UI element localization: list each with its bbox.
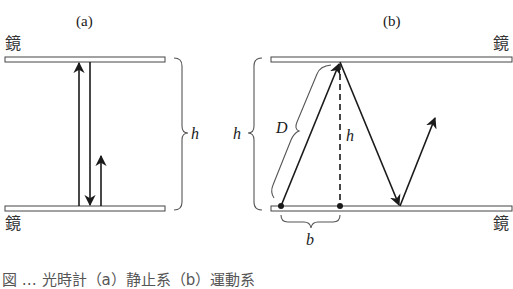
apex-projection-dot xyxy=(337,203,343,209)
panel-label-b: (b) xyxy=(383,14,401,29)
panel-label-a: (a) xyxy=(76,14,93,29)
height-label-a: h xyxy=(191,126,199,142)
panel-a xyxy=(5,57,188,211)
height-label-center-b: h xyxy=(346,128,354,144)
light-ray-diagonal-up-b xyxy=(281,64,339,206)
mirror-bottom-a xyxy=(5,206,165,211)
mirror-top-a xyxy=(5,57,165,62)
light-ray-diagonal-up2-b xyxy=(400,118,435,206)
height-brace-b xyxy=(248,58,262,210)
diagonal-label-b: D xyxy=(276,120,288,136)
height-brace-a xyxy=(174,58,188,210)
panel-b xyxy=(248,57,512,228)
mirror-label-bottom-b: 鏡 xyxy=(493,216,509,232)
mirror-bottom-b xyxy=(271,206,512,211)
base-brace-b xyxy=(281,215,340,228)
height-label-left-b: h xyxy=(233,126,241,142)
mirror-label-top-a: 鏡 xyxy=(5,36,21,52)
mirror-label-top-b: 鏡 xyxy=(493,36,509,52)
figure-caption: 図 … 光時計（a）静止系（b）運動系 xyxy=(2,268,255,289)
base-label-b: b xyxy=(306,232,314,248)
mirror-top-b xyxy=(271,57,512,62)
start-point-dot xyxy=(278,203,284,209)
mirror-label-bottom-a: 鏡 xyxy=(5,216,21,232)
